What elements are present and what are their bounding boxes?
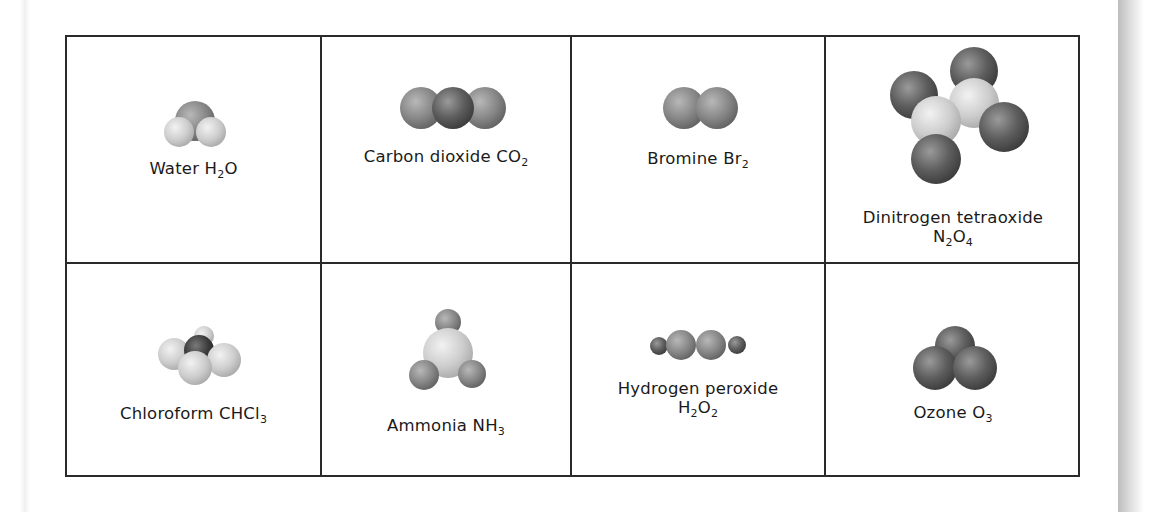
bromine-molecule-icon bbox=[662, 85, 742, 133]
molecule-formula: NH3 bbox=[473, 416, 505, 435]
molecule-name: Water bbox=[149, 159, 199, 178]
molecule-cell-water: Water H2O bbox=[67, 37, 320, 262]
molecule-name: Ozone bbox=[913, 403, 966, 422]
molecule-cell-dinitrogen-tetraoxide: Dinitrogen tetraoxide N2O4 bbox=[826, 37, 1080, 262]
molecule-formula: Br2 bbox=[723, 149, 749, 168]
molecule-caption: Chloroform CHCl3 bbox=[67, 404, 320, 423]
page-edge-left bbox=[20, 0, 30, 512]
molecule-name: Ammonia bbox=[387, 416, 467, 435]
molecule-formula: H2O bbox=[205, 159, 238, 178]
water-molecule-icon bbox=[162, 99, 232, 149]
molecule-table: Water H2O Carbon dioxide CO2 Bromine Br2 bbox=[65, 35, 1080, 477]
molecule-caption: Ozone O3 bbox=[826, 403, 1080, 422]
molecule-cell-ozone: Ozone O3 bbox=[826, 264, 1080, 475]
molecule-name: Dinitrogen tetraoxide bbox=[826, 208, 1080, 227]
molecule-formula: H2O2 bbox=[572, 398, 824, 417]
molecule-cell-hydrogen-peroxide: Hydrogen peroxide H2O2 bbox=[572, 264, 824, 475]
molecule-name: Bromine bbox=[647, 149, 718, 168]
molecule-name: Carbon dioxide bbox=[364, 147, 491, 166]
molecule-caption: Dinitrogen tetraoxide N2O4 bbox=[826, 208, 1080, 246]
molecule-formula: CHCl3 bbox=[219, 404, 267, 423]
molecule-name: Chloroform bbox=[120, 404, 214, 423]
molecule-formula: CO2 bbox=[496, 147, 528, 166]
molecule-cell-bromine: Bromine Br2 bbox=[572, 37, 824, 262]
page-edge-shadow bbox=[1118, 0, 1144, 512]
molecule-formula: N2O4 bbox=[826, 227, 1080, 246]
hydrogen-peroxide-molecule-icon bbox=[648, 330, 748, 368]
molecule-caption: Bromine Br2 bbox=[572, 149, 824, 168]
molecule-caption: Water H2O bbox=[67, 159, 320, 178]
ozone-molecule-icon bbox=[911, 326, 1001, 394]
molecule-caption: Carbon dioxide CO2 bbox=[322, 147, 570, 166]
dinitrogen-tetraoxide-molecule-icon bbox=[876, 41, 1036, 181]
ammonia-molecule-icon bbox=[402, 308, 492, 398]
chloroform-molecule-icon bbox=[152, 324, 242, 394]
molecule-cell-carbon-dioxide: Carbon dioxide CO2 bbox=[322, 37, 570, 262]
molecule-cell-ammonia: Ammonia NH3 bbox=[322, 264, 570, 475]
molecule-name: Hydrogen peroxide bbox=[572, 379, 824, 398]
molecule-cell-chloroform: Chloroform CHCl3 bbox=[67, 264, 320, 475]
molecule-caption: Ammonia NH3 bbox=[322, 416, 570, 435]
molecule-formula: O3 bbox=[972, 403, 992, 422]
molecule-caption: Hydrogen peroxide H2O2 bbox=[572, 379, 824, 417]
carbon-dioxide-molecule-icon bbox=[399, 85, 509, 133]
